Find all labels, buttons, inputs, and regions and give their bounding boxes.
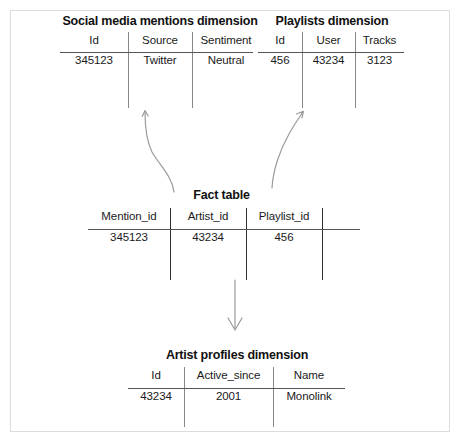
column-header: Sentiment [192, 32, 260, 49]
column-header: Active_since [184, 367, 273, 384]
table-title: Artist profiles dimension [128, 348, 346, 362]
table-cell: Neutral [192, 50, 260, 70]
column-header: Name [273, 367, 345, 384]
column-header: Id [128, 367, 184, 384]
column-separator [170, 208, 171, 280]
table-title: Fact table [74, 188, 369, 202]
table-social-media-mentions-dimension: Social media mentions dimension Id Sourc… [60, 14, 260, 70]
column-separator [246, 208, 247, 280]
table-grid: Mention_id Artist_id Playlist_id 345123 … [88, 208, 360, 247]
column-header: Tracks [355, 32, 404, 49]
diagram-canvas: Social media mentions dimension Id Sourc… [0, 0, 460, 440]
column-separator [184, 367, 185, 427]
header-rule [128, 388, 345, 389]
column-separator [192, 32, 193, 108]
table-cell: 43234 [128, 386, 184, 406]
table-grid: Id Source Sentiment 345123 Twitter Neutr… [60, 32, 260, 70]
column-header: User [302, 32, 355, 49]
column-header: Artist_id [170, 208, 246, 225]
table-cell: Monolink [273, 386, 345, 406]
header-rule [258, 52, 404, 53]
column-separator [128, 32, 129, 108]
column-separator [302, 32, 303, 108]
header-rule [60, 52, 253, 53]
table-cell: 2001 [184, 386, 273, 406]
table-title: Social media mentions dimension [60, 14, 260, 28]
column-header [322, 208, 360, 225]
table-grid: Id User Tracks 456 43234 3123 [258, 32, 406, 70]
column-header: Id [258, 32, 302, 49]
table-cell: 43234 [170, 227, 246, 247]
table-header-row: Id Active_since Name [128, 367, 346, 384]
table-row: 345123 Twitter Neutral [60, 50, 260, 70]
table-row: 43234 2001 Monolink [128, 386, 346, 406]
column-header: Mention_id [88, 208, 170, 225]
column-header: Playlist_id [246, 208, 322, 225]
table-artist-profiles-dimension: Artist profiles dimension Id Active_sinc… [128, 348, 346, 406]
table-header-row: Id Source Sentiment [60, 32, 260, 49]
table-header-row: Id User Tracks [258, 32, 406, 49]
table-cell: Twitter [128, 50, 192, 70]
column-header: Id [60, 32, 128, 49]
table-cell: 456 [258, 50, 302, 70]
table-fact-table: Fact table Mention_id Artist_id Playlist… [88, 188, 360, 247]
table-header-row: Mention_id Artist_id Playlist_id [88, 208, 360, 225]
header-rule [88, 229, 360, 230]
table-cell: 345123 [60, 50, 128, 70]
table-grid: Id Active_since Name 43234 2001 Monolink [128, 367, 346, 406]
table-title: Playlists dimension [258, 14, 406, 28]
table-cell: 345123 [88, 227, 170, 247]
table-row: 345123 43234 456 [88, 227, 360, 247]
column-separator [355, 32, 356, 108]
table-cell: 43234 [302, 50, 355, 70]
column-separator [322, 208, 323, 280]
table-cell: 456 [246, 227, 322, 247]
table-cell [322, 227, 360, 247]
table-cell: 3123 [355, 50, 404, 70]
table-row: 456 43234 3123 [258, 50, 406, 70]
column-separator [273, 367, 274, 427]
column-header: Source [128, 32, 192, 49]
table-playlists-dimension: Playlists dimension Id User Tracks 456 4… [258, 14, 406, 70]
